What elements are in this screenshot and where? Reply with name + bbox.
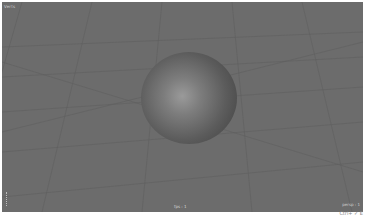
hud-camera-label: persp : 1 [342,202,360,207]
hud-top-left: Verts [4,4,15,9]
sphere-object[interactable] [141,52,237,144]
footer-note: Ctrl+ ✓ E [339,210,363,216]
3d-viewport[interactable]: Verts fps : 1 persp : 1 [2,2,363,212]
hud-bottom-center: fps : 1 [174,204,186,209]
axis-indicator [6,192,9,206]
